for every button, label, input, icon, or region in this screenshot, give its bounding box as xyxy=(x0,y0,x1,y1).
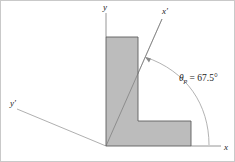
y-prime-mark: ′ xyxy=(14,98,16,108)
x-prime-axis-label: x′ xyxy=(162,7,168,16)
figure-canvas: y x′ y′ x θp = 67.5° xyxy=(0,0,235,162)
y-axis-label: y xyxy=(103,3,107,12)
equals-sign: = xyxy=(190,73,195,83)
angle-value: 67.5 xyxy=(197,73,214,83)
x-axis-label: x xyxy=(224,143,228,152)
y-prime-axis-line xyxy=(17,109,106,146)
principal-angle-annotation: θp = 67.5° xyxy=(179,74,218,85)
degree-unit: ° xyxy=(214,73,218,83)
x-axis-label-text: x xyxy=(224,142,228,152)
y-axis-label-text: y xyxy=(103,2,107,12)
theta-subscript: p xyxy=(184,77,188,85)
l-section-shape xyxy=(106,37,191,146)
x-prime-mark: ′ xyxy=(166,6,168,16)
angle-arc-arrowhead xyxy=(145,57,151,63)
y-prime-axis-label: y′ xyxy=(10,99,16,108)
